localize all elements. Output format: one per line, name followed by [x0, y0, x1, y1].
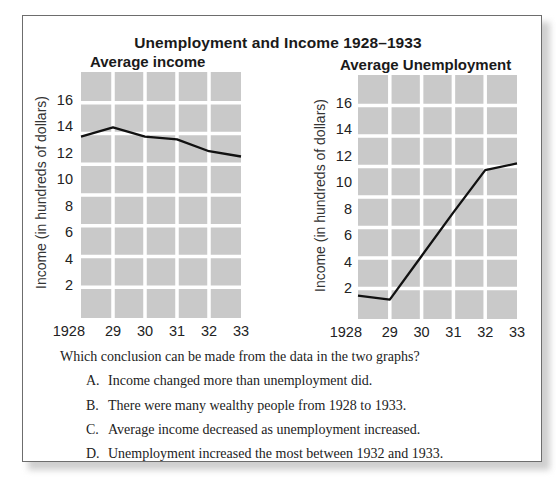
question-prompt: Which conclusion can be made from the da…: [60, 349, 420, 365]
y-tick-label: 12: [336, 148, 352, 164]
option-text: Unemployment increased the most between …: [108, 446, 443, 461]
option-letter: A.: [86, 373, 108, 389]
x-tick-label: 32: [201, 323, 217, 339]
y-tick-label: 6: [65, 224, 73, 240]
income-line-chart: 246810121416Income (in hundreds of dolla…: [33, 72, 249, 339]
x-tick-label: 1928: [330, 324, 362, 340]
y-tick-label: 2: [344, 280, 352, 296]
y-tick-label: 6: [344, 227, 352, 243]
x-tick-label: 30: [137, 323, 153, 339]
y-tick-label: 14: [336, 121, 352, 137]
option-text: Income changed more than unemployment di…: [108, 373, 372, 388]
unemployment-line-chart: 246810121416Income (in hundreds of dolla…: [312, 75, 525, 340]
y-tick-label: 12: [57, 145, 73, 161]
y-tick-label: 8: [344, 201, 352, 217]
option-text: Average income decreased as unemployment…: [108, 422, 420, 437]
x-tick-label: 33: [233, 323, 249, 339]
answer-option-c[interactable]: C.Average income decreased as unemployme…: [86, 422, 420, 438]
y-tick-label: 14: [57, 118, 73, 134]
answer-option-d[interactable]: D.Unemployment increased the most betwee…: [86, 446, 443, 462]
option-text: There were many wealthy people from 1928…: [108, 398, 406, 413]
answer-option-a[interactable]: A.Income changed more than unemployment …: [86, 373, 372, 389]
x-tick-label: 30: [414, 324, 430, 340]
x-tick-label: 31: [169, 323, 185, 339]
x-tick-label: 33: [509, 324, 525, 340]
y-axis-title: Income (in hundreds of dollars): [33, 96, 49, 289]
y-tick-label: 2: [65, 277, 73, 293]
y-tick-label: 8: [65, 198, 73, 214]
y-tick-label: 4: [344, 254, 352, 270]
x-tick-label: 1928: [53, 323, 85, 339]
y-tick-label: 4: [65, 251, 73, 267]
y-tick-label: 16: [336, 95, 352, 111]
option-letter: D.: [86, 446, 108, 462]
option-letter: C.: [86, 422, 108, 438]
y-tick-label: 10: [336, 174, 352, 190]
y-tick-label: 10: [57, 171, 73, 187]
option-letter: B.: [86, 398, 108, 414]
x-tick-label: 31: [445, 324, 461, 340]
x-tick-label: 29: [105, 323, 121, 339]
x-tick-label: 32: [477, 324, 493, 340]
y-axis-title: Income (in hundreds of dollars): [312, 99, 328, 292]
x-tick-label: 29: [382, 324, 398, 340]
y-tick-label: 16: [57, 92, 73, 108]
answer-option-b[interactable]: B.There were many wealthy people from 19…: [86, 398, 406, 414]
